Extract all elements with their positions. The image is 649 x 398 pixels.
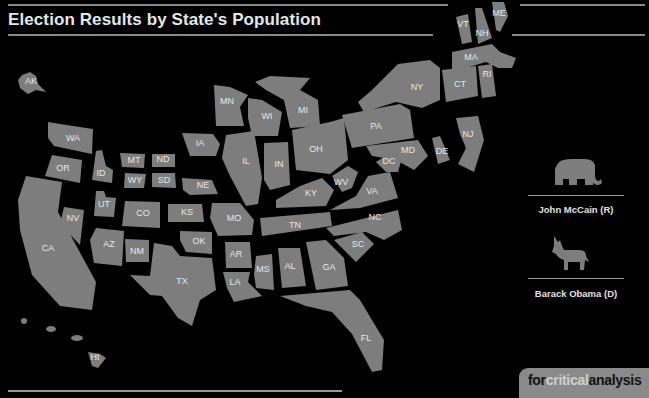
state-label-de: DE (436, 146, 449, 156)
state-fl[interactable] (280, 290, 384, 372)
state-label-ut: UT (98, 199, 110, 209)
badge-text: forcriticalanalysis (528, 372, 641, 388)
state-label-pa: PA (370, 121, 381, 131)
footer-rule (8, 390, 342, 392)
state-label-ne: NE (197, 180, 210, 190)
state-shapes (18, 2, 516, 372)
state-label-sd: SD (158, 175, 171, 185)
state-label-al: AL (284, 261, 295, 271)
state-hi-island (46, 326, 56, 332)
state-label-oh: OH (309, 144, 323, 154)
state-label-wa: WA (66, 133, 80, 143)
state-nj[interactable] (456, 116, 484, 172)
state-label-ct: CT (454, 79, 466, 89)
state-label-vt: VT (457, 19, 469, 29)
state-nh[interactable] (475, 8, 492, 44)
state-hi-island (21, 318, 27, 324)
state-label-ak: AK (25, 76, 37, 86)
legend-label-mccain: John McCain (R) (520, 204, 632, 215)
legend-label-obama: Barack Obama (D) (520, 288, 632, 299)
state-label-il: IL (242, 156, 250, 166)
state-labels: AKWAORCANVIDMTWYUTAZCONMNDSDNEKSOKTXMNIA… (25, 8, 506, 362)
state-label-ia: IA (196, 138, 205, 148)
state-label-tx: TX (176, 276, 188, 286)
state-label-ga: GA (322, 262, 335, 272)
state-label-mn: MN (220, 96, 234, 106)
state-hi-island (71, 335, 83, 341)
state-label-ar: AR (230, 249, 243, 259)
state-label-mi: MI (298, 105, 308, 115)
state-label-hi: HI (91, 352, 100, 362)
state-label-nd: ND (157, 154, 170, 164)
state-label-md: MD (401, 145, 415, 155)
state-label-ky: KY (305, 188, 317, 198)
state-label-nj: NJ (463, 129, 474, 139)
state-ca[interactable] (18, 176, 96, 310)
badge-text-for: for (528, 372, 546, 388)
legend-divider-d (528, 278, 624, 279)
state-label-nm: NM (130, 246, 144, 256)
state-label-dc: DC (383, 156, 396, 166)
state-label-sc: SC (352, 239, 365, 249)
state-label-nc: NC (369, 212, 382, 222)
state-label-mt: MT (128, 155, 141, 165)
legend-divider-r (528, 195, 624, 196)
state-label-ms: MS (256, 264, 270, 274)
state-label-ok: OK (192, 236, 205, 246)
badge-text-analysis: analysis (589, 372, 642, 388)
state-label-tn: TN (289, 220, 301, 230)
state-label-id: ID (97, 168, 107, 178)
state-il[interactable] (222, 131, 262, 206)
state-label-wy: WY (128, 175, 143, 185)
state-label-mo: MO (227, 213, 242, 223)
donkey-icon (550, 236, 590, 272)
state-label-ma: MA (464, 52, 478, 62)
state-label-nv: NV (67, 213, 80, 223)
state-label-fl: FL (361, 333, 372, 343)
state-label-ks: KS (181, 207, 193, 217)
state-label-wv: WV (334, 177, 349, 187)
state-label-ri: RI (483, 69, 492, 79)
state-label-in: IN (275, 159, 284, 169)
state-label-ca: CA (42, 243, 55, 253)
state-label-la: LA (229, 277, 240, 287)
state-label-or: OR (56, 163, 70, 173)
state-label-me: ME (492, 8, 506, 18)
state-label-nh: NH (476, 28, 489, 38)
state-label-va: VA (366, 186, 377, 196)
state-label-ny: NY (411, 82, 424, 92)
state-label-co: CO (136, 208, 150, 218)
state-label-wi: WI (262, 111, 273, 121)
state-label-az: AZ (103, 239, 115, 249)
elephant-icon (549, 159, 603, 189)
badge-text-critical: critical (546, 372, 589, 388)
